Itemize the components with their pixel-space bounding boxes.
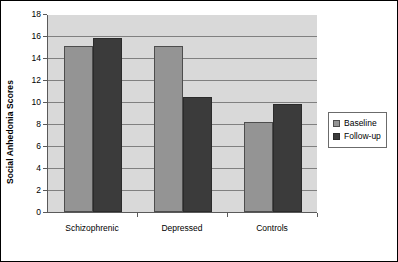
y-tick-label: 16 xyxy=(15,32,41,41)
y-tick-label: 8 xyxy=(15,120,41,129)
y-tick-label: 10 xyxy=(15,98,41,107)
x-category-label-controls: Controls xyxy=(227,223,317,233)
x-tick-mark xyxy=(137,213,138,217)
plot-frame xyxy=(47,15,317,213)
y-tick-label: 4 xyxy=(15,164,41,173)
baseline-swatch-icon xyxy=(333,120,340,127)
plot-area xyxy=(48,15,317,212)
bar-schizophrenic-baseline xyxy=(64,46,93,212)
gridline xyxy=(48,36,317,37)
followup-swatch-icon xyxy=(333,133,340,140)
y-tick-label: 0 xyxy=(15,208,41,217)
bar-controls-baseline xyxy=(244,122,273,212)
y-tick-label: 18 xyxy=(15,10,41,19)
bar-depressed-follow-up xyxy=(183,97,212,213)
y-tick-label: 2 xyxy=(15,186,41,195)
x-category-label-depressed: Depressed xyxy=(137,223,227,233)
x-tick-mark xyxy=(317,213,318,217)
y-tick-label: 6 xyxy=(15,142,41,151)
legend-item-follow-up: Follow-up xyxy=(333,130,381,143)
y-tick-label: 14 xyxy=(15,54,41,63)
chart-legend: BaselineFollow-up xyxy=(328,112,387,148)
bar-depressed-baseline xyxy=(154,46,183,212)
x-category-label-schizophrenic: Schizophrenic xyxy=(47,223,137,233)
x-tick-mark xyxy=(227,213,228,217)
legend-label: Baseline xyxy=(344,119,377,128)
bar-controls-follow-up xyxy=(273,104,302,212)
bar-schizophrenic-follow-up xyxy=(93,38,122,212)
legend-item-baseline: Baseline xyxy=(333,117,381,130)
y-tick-label: 12 xyxy=(15,76,41,85)
legend-label: Follow-up xyxy=(344,132,381,141)
chart-figure: Social Anhedonia Scores 024681012141618 … xyxy=(0,0,398,262)
